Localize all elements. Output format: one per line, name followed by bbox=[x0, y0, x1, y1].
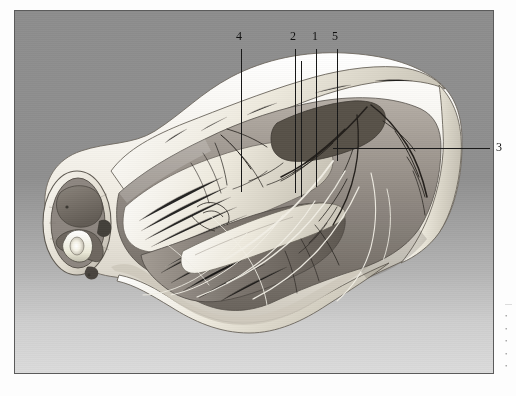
leader-line-1 bbox=[316, 49, 317, 187]
edge-caption-line: • bbox=[505, 362, 514, 370]
leader-line-3 bbox=[333, 148, 490, 149]
edge-caption-line: • bbox=[505, 312, 514, 320]
label-3: 3 bbox=[496, 141, 502, 153]
illustration-plate bbox=[14, 10, 494, 374]
edge-caption-line: • bbox=[505, 350, 514, 358]
leader-line-5 bbox=[337, 49, 338, 161]
label-4: 4 bbox=[236, 30, 242, 42]
edge-caption-line: • bbox=[505, 337, 514, 345]
edge-caption-line: — bbox=[505, 300, 514, 308]
edge-caption-fragments: — • • • • • bbox=[505, 300, 514, 370]
label-1: 1 bbox=[312, 30, 318, 42]
leader-line-2a bbox=[295, 49, 296, 193]
edge-caption-line: • bbox=[505, 325, 514, 333]
anatomical-illustration bbox=[15, 11, 493, 373]
page-root: 4 2 1 5 3 — • • • • • bbox=[0, 0, 516, 396]
leader-line-4 bbox=[241, 49, 242, 192]
label-5: 5 bbox=[332, 30, 338, 42]
label-2: 2 bbox=[290, 30, 296, 42]
leader-line-2b bbox=[301, 61, 302, 197]
